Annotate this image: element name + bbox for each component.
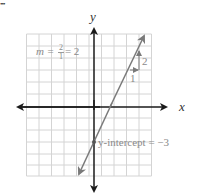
slope-prefix: m = (36, 45, 57, 57)
x-axis-label: x (179, 100, 185, 113)
slope-denominator: 1 (58, 53, 64, 61)
graph-canvas (0, 0, 197, 196)
y-intercept-label: y-intercept = −3 (98, 137, 169, 148)
y-axis-label: y (90, 10, 96, 23)
y-intercept-point (92, 140, 96, 144)
slope-suffix: = 2 (65, 45, 79, 57)
rise-label: 2 (142, 56, 148, 67)
slope-intercept-graph: ••• (0, 0, 197, 196)
slope-fraction: 21 (58, 44, 64, 61)
run-label: 1 (130, 73, 136, 84)
slope-label: m = 21= 2 (36, 44, 79, 61)
